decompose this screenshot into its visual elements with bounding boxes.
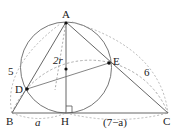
label-h: H bbox=[61, 116, 69, 127]
label-b: B bbox=[6, 116, 13, 127]
label-bh-length: a bbox=[35, 117, 41, 128]
point-a bbox=[64, 21, 67, 24]
ac-measure-arc bbox=[72, 22, 168, 113]
point-e bbox=[107, 61, 111, 65]
label-hc-length: (7−a) bbox=[103, 117, 127, 128]
right-angle-mark bbox=[66, 106, 72, 113]
label-ah-length: 2r bbox=[53, 55, 63, 66]
label-ab-length: 5 bbox=[8, 66, 14, 77]
label-d: D bbox=[15, 84, 23, 95]
label-ac-length: 6 bbox=[144, 67, 150, 78]
point-center bbox=[64, 67, 67, 70]
point-d bbox=[25, 87, 29, 91]
label-e: E bbox=[113, 56, 120, 67]
label-c: C bbox=[163, 116, 170, 127]
diagram-canvas bbox=[0, 0, 181, 132]
ab-measure-arc bbox=[11, 24, 60, 113]
geometry-diagram: A B C H D E 5 6 2r a (7−a) bbox=[0, 0, 181, 132]
label-a: A bbox=[62, 9, 70, 20]
